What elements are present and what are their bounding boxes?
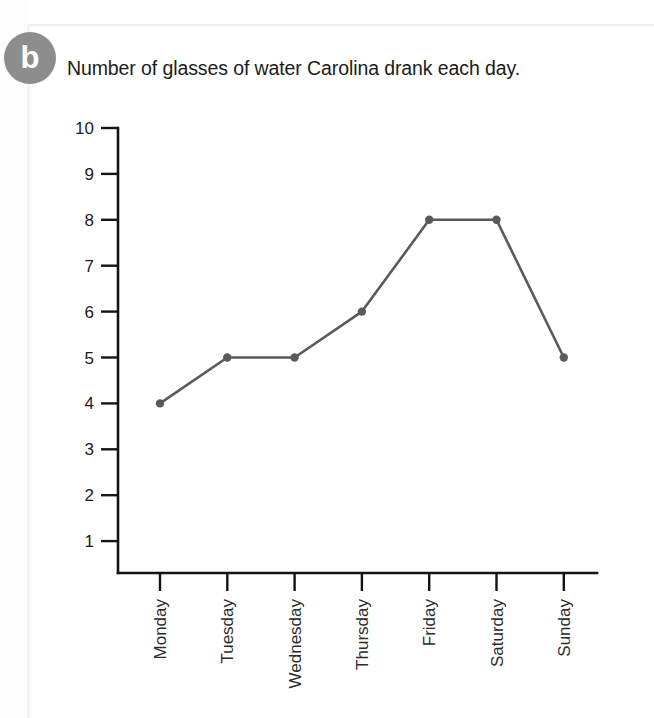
x-axis-tick-label: Friday [420, 599, 439, 647]
data-point-marker [223, 353, 231, 361]
data-point-marker [560, 353, 568, 361]
x-axis-tick-label: Saturday [488, 599, 507, 668]
y-axis: 10987654321 [75, 119, 118, 573]
y-axis-tick-label: 8 [85, 211, 94, 230]
worksheet-page: b Number of glasses of water Carolina dr… [0, 0, 654, 718]
line-chart: 10987654321 MondayTuesdayWednesdayThursd… [0, 0, 654, 718]
y-axis-tick-label: 9 [85, 165, 94, 184]
x-axis-tick-label: Thursday [353, 599, 372, 670]
x-axis-tick-label: Monday [151, 599, 170, 660]
y-axis-tick-label: 3 [85, 440, 94, 459]
data-point-marker [290, 353, 298, 361]
x-axis-tick-label: Tuesday [218, 599, 237, 664]
x-axis-tick-label: Wednesday [286, 599, 305, 689]
x-axis-labels: MondayTuesdayWednesdayThursdayFridaySatu… [151, 599, 574, 689]
y-axis-tick-label: 7 [85, 257, 94, 276]
y-axis-tick-label: 6 [85, 303, 94, 322]
y-axis-tick-label: 10 [75, 119, 94, 138]
y-axis-tick-label: 5 [85, 349, 94, 368]
data-point-marker [156, 399, 164, 407]
data-point-marker [492, 216, 500, 224]
data-point-marker [358, 307, 366, 315]
y-axis-tick-label: 1 [85, 532, 94, 551]
data-point-marker [425, 216, 433, 224]
y-axis-tick-label: 2 [85, 486, 94, 505]
x-axis-tick-label: Sunday [555, 599, 574, 657]
x-axis [118, 573, 597, 591]
y-axis-tick-label: 4 [85, 394, 94, 413]
data-series [156, 216, 568, 408]
